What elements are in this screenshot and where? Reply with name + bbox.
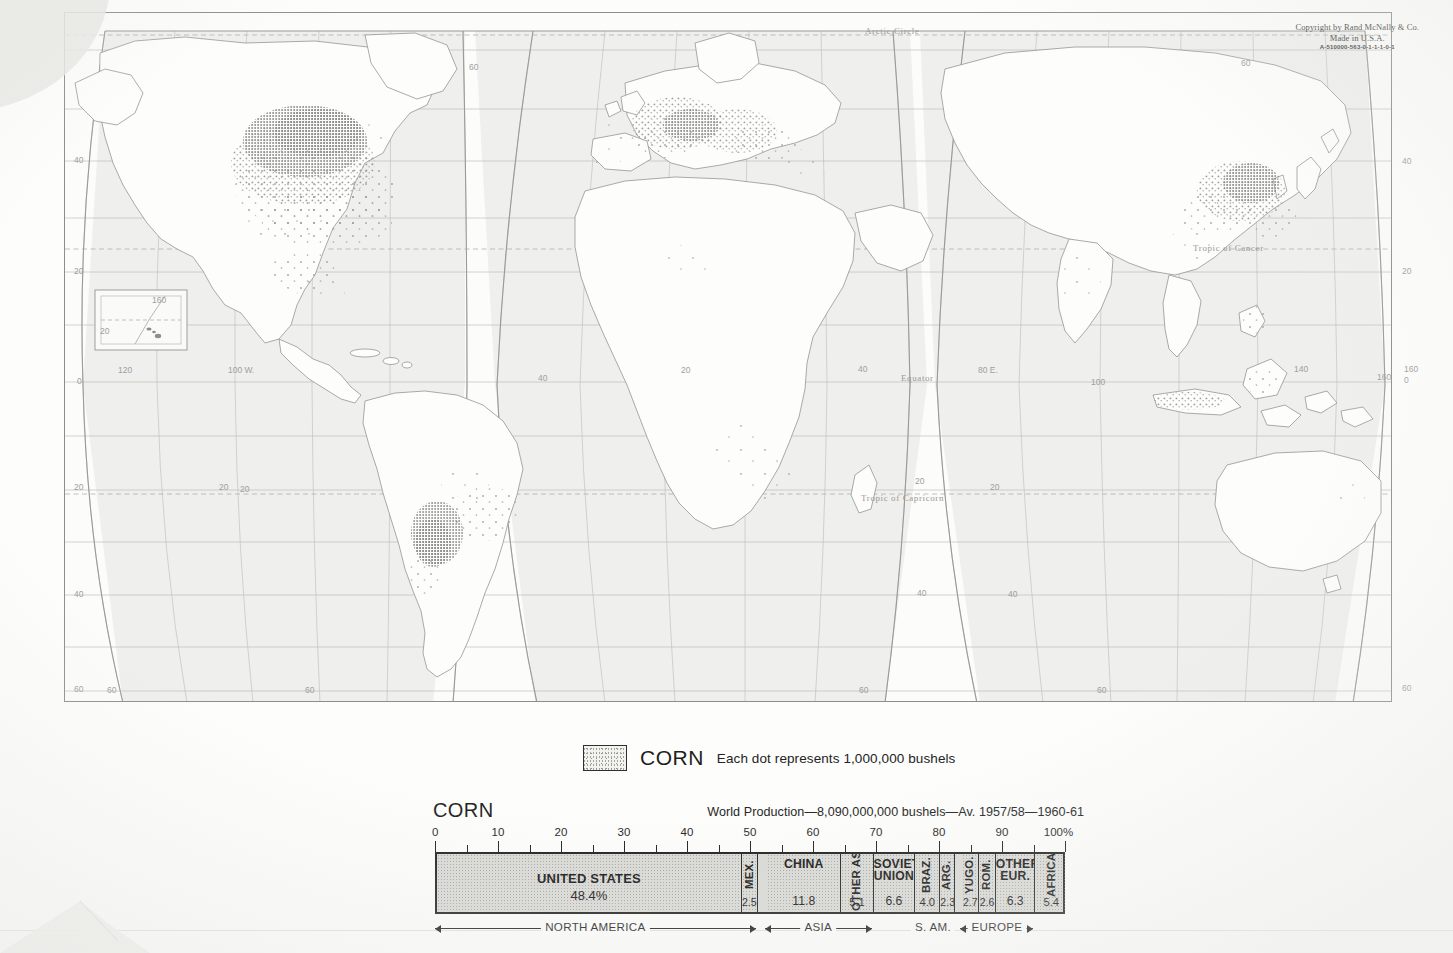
axis-tick-15 — [530, 845, 531, 852]
bar-segment-other-eur[interactable]: OTHEREUR.6.3 — [996, 854, 1036, 912]
bar-segment-value: 48.4% — [437, 888, 741, 903]
bracket-arrow-right-icon — [1027, 925, 1033, 933]
inset-label-20: 20 — [100, 326, 109, 336]
stacked-bar: UNITED STATES48.4%MEX.2.5CHINA11.8OTHER … — [435, 852, 1065, 914]
bar-segment-value: 6.3 — [996, 894, 1035, 908]
axis-tick-60 — [813, 841, 814, 852]
corn-dot-pattern-swatch — [583, 745, 627, 771]
axis-tick-35 — [656, 845, 657, 852]
grid-label-20s-d: 20 — [990, 482, 999, 492]
bar-segment-arg[interactable]: ARG.2.3 — [940, 854, 954, 912]
bar-segment-label: MEX. — [742, 856, 757, 894]
bracket-label: NORTH AMERICA — [541, 920, 649, 933]
axis-label-100: 100% — [1044, 826, 1073, 838]
bar-segment-label: CHINA — [767, 858, 840, 870]
bracket-arrow-left-icon — [960, 925, 966, 933]
bracket-label: EUROPE — [968, 920, 1027, 933]
lat-label-left-60s: 60 — [74, 684, 83, 694]
corn-production-chart: CORN World Production—8,090,000,000 bush… — [433, 800, 1073, 937]
bar-segment-united-states[interactable]: UNITED STATES48.4% — [437, 854, 742, 912]
bar-segment-label: BRAZ. — [915, 856, 939, 894]
axis-tick-100 — [1065, 841, 1066, 852]
bar-segment-label: ARG. — [940, 856, 953, 894]
lon-label-140: 140 — [1294, 364, 1308, 374]
map-label-equator: Equator — [901, 373, 934, 383]
grid-label-20s-a: 20 — [219, 482, 228, 492]
axis-label-40: 40 — [681, 826, 694, 838]
axis-label-20: 20 — [555, 826, 568, 838]
axis-tick-65 — [845, 845, 846, 852]
bracket-arrow-right-icon — [750, 925, 756, 933]
bar-segment-value: 4.0 — [915, 896, 939, 908]
lat-label-right-60s: 60 — [1402, 683, 1411, 693]
axis-label-70: 70 — [870, 826, 883, 838]
map-label-tropic-of-capricorn: Tropic of Capricorn — [861, 493, 944, 503]
inset-label-160: 160 — [152, 295, 166, 305]
axis-tick-0 — [435, 841, 436, 852]
axis-tick-10 — [498, 841, 499, 852]
grid-label-40s-b: 40 — [1008, 589, 1017, 599]
bar-segment-value: 5.4 — [1036, 896, 1068, 908]
lon-label-120: 120 — [118, 365, 132, 375]
chart-title: CORN — [433, 799, 494, 822]
bar-segment-value: 2.5 — [742, 896, 757, 908]
axis-tick-95 — [1034, 845, 1035, 852]
plate-code: A-510000-563-0-1-1-1-0-1 — [1295, 44, 1419, 52]
grid-label-60s-a: 60 — [107, 685, 116, 695]
map-graphic — [65, 13, 1391, 701]
copyright-block: Copyright by Rand McNally & Co. Made in … — [1295, 22, 1419, 52]
region-brackets: NORTH AMERICAASIAS. AM.EUROPE — [435, 917, 1065, 937]
bar-segment-label: UNITED STATES — [437, 872, 741, 885]
bracket-label: ASIA — [801, 920, 837, 933]
grid-label-60n-atlantic: 60 — [469, 62, 478, 72]
chart-header: CORN World Production—8,090,000,000 bush… — [433, 800, 1073, 826]
bar-segment-label: OTHEREUR. — [996, 858, 1035, 883]
dot-legend: CORN Each dot represents 1,000,000 bushe… — [583, 745, 955, 771]
copyright-line-2: Made in U.S.A. — [1295, 33, 1419, 44]
lat-label-right-40n: 40 — [1402, 156, 1411, 166]
bar-segment-braz[interactable]: BRAZ.4.0 — [915, 854, 940, 912]
lat-label-right-0: 0 — [1404, 375, 1409, 385]
axis-tick-90 — [1002, 841, 1003, 852]
bar-segment-label: OTHER ASIA — [841, 856, 872, 894]
axis-label-80: 80 — [933, 826, 946, 838]
region-bracket-asia: ASIA — [765, 923, 871, 935]
grid-label-60s-c: 60 — [859, 685, 868, 695]
axis-tick-75 — [908, 845, 909, 852]
region-bracket-europe: EUROPE — [960, 923, 1033, 935]
bar-segment-label: SOVIETUNION — [874, 858, 915, 883]
legend-title: CORN — [640, 746, 704, 770]
bar-segment-value: 2.3 — [940, 896, 953, 908]
axis-tick-40 — [687, 841, 688, 852]
axis-tick-30 — [624, 841, 625, 852]
bar-segment-china[interactable]: CHINA11.8 — [767, 854, 841, 912]
grid-label-60n-asia: 60 — [1241, 58, 1250, 68]
region-bracket-s-am: S. AM. — [913, 923, 953, 935]
bar-segment-africa[interactable]: AFRICA5.4 — [1036, 854, 1068, 912]
lat-label-right-20n: 20 — [1402, 266, 1411, 276]
lon-label-160-right: 160 — [1404, 364, 1418, 374]
map-label-arctic-circle: Arctic Circle — [865, 26, 920, 36]
lon-label-40-africa: 40 — [858, 364, 867, 374]
grid-label-20s-c: 20 — [915, 476, 924, 486]
atlas-page: Arctic Circle Tropic of Cancer Tropic of… — [0, 0, 1453, 953]
grid-label-40s-a: 40 — [917, 588, 926, 598]
bracket-arrow-right-icon — [866, 925, 872, 933]
bar-segment-yugo[interactable]: YUGO.2.7 — [962, 854, 979, 912]
bar-segment-value: 5.1 — [841, 896, 872, 908]
lon-label-40-atlantic: 40 — [538, 373, 547, 383]
axis-tick-55 — [782, 845, 783, 852]
bar-segment-soviet-union[interactable]: SOVIETUNION6.6 — [874, 854, 916, 912]
bracket-arrow-left-icon — [435, 925, 441, 933]
axis-tick-80 — [939, 841, 940, 852]
bar-segment-rom[interactable]: ROM.2.6 — [979, 854, 995, 912]
bar-segment-value: 2.7 — [962, 896, 978, 908]
axis-label-90: 90 — [996, 826, 1009, 838]
bar-segment-value: 11.8 — [767, 894, 840, 908]
bar-segment-value: 2.6 — [979, 896, 994, 908]
bar-segment-mex[interactable]: MEX.2.5 — [742, 854, 758, 912]
bar-segment-other-asia[interactable]: OTHER ASIA5.1 — [841, 854, 873, 912]
hawaii-inset-box — [95, 290, 187, 350]
bracket-arrow-left-icon — [765, 925, 771, 933]
lat-label-left-20n: 20 — [74, 266, 83, 276]
